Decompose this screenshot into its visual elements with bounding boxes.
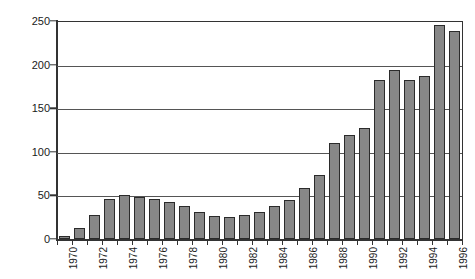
bar <box>194 212 205 239</box>
x-axis-tick-mark <box>72 240 73 245</box>
x-axis-tick-mark <box>207 240 208 245</box>
bar <box>89 215 100 239</box>
y-axis-tick-mark <box>50 195 56 196</box>
x-axis-tick-mark <box>432 240 433 245</box>
x-axis-tick-mark <box>387 240 388 245</box>
bar <box>164 202 175 239</box>
x-axis-tick-mark <box>237 240 238 245</box>
bar <box>179 206 190 239</box>
y-axis-tick-mark <box>50 107 56 108</box>
bar <box>104 199 115 239</box>
x-axis-tick-label: 1986 <box>309 247 319 269</box>
y-axis-tick-label: 50 <box>16 190 50 201</box>
x-axis-tick-mark <box>132 240 133 245</box>
x-axis-tick-mark <box>222 240 223 245</box>
x-axis-tick-label: 1994 <box>429 247 439 269</box>
x-axis-tick-label: 1990 <box>369 247 379 269</box>
x-axis-tick-mark <box>177 240 178 245</box>
bar <box>134 197 145 239</box>
bar-chart: 050100150200250 197019721974197619781980… <box>0 0 475 279</box>
bar <box>404 80 415 239</box>
x-axis-tick-mark <box>117 240 118 245</box>
x-axis-tick-mark <box>102 240 103 245</box>
x-axis-tick-mark <box>327 240 328 245</box>
bar <box>329 143 340 239</box>
x-axis-tick-mark <box>282 240 283 245</box>
x-axis-tick-label: 1976 <box>159 247 169 269</box>
y-axis-tick-mark <box>50 64 56 65</box>
x-axis-tick-mark <box>417 240 418 245</box>
y-axis-tick-mark <box>50 151 56 152</box>
y-axis-tick-label: 200 <box>16 59 50 70</box>
bar <box>359 128 370 239</box>
bar <box>389 70 400 239</box>
x-axis-tick-label: 1978 <box>189 247 199 269</box>
bar <box>269 206 280 239</box>
x-axis-tick-mark <box>447 240 448 245</box>
x-axis-tick-mark <box>162 240 163 245</box>
x-axis-tick-mark <box>357 240 358 245</box>
x-axis-tick-mark <box>87 240 88 245</box>
x-axis-tick-mark <box>192 240 193 245</box>
x-axis-tick-label: 1992 <box>399 247 409 269</box>
x-axis-tick-label: 1982 <box>249 247 259 269</box>
x-axis-tick-mark <box>252 240 253 245</box>
x-axis-tick-mark <box>372 240 373 245</box>
y-axis-tick-label: 150 <box>16 103 50 114</box>
x-axis-tick-label: 1974 <box>129 247 139 269</box>
x-axis-tick-label: 1984 <box>279 247 289 269</box>
bar <box>434 25 445 239</box>
x-axis-tick-mark <box>402 240 403 245</box>
x-axis-tick-label: 1996 <box>459 247 469 269</box>
bar <box>299 188 310 239</box>
bar <box>74 228 85 239</box>
bar <box>239 215 250 239</box>
x-axis-tick-mark <box>462 240 463 245</box>
x-axis: 1970197219741976197819801982198419861988… <box>57 240 462 279</box>
bar <box>209 216 220 239</box>
y-axis-tick-label: 0 <box>16 234 50 245</box>
bar <box>449 31 460 239</box>
y-axis: 050100150200250 <box>0 0 50 279</box>
x-axis-tick-label: 1980 <box>219 247 229 269</box>
x-axis-tick-mark <box>297 240 298 245</box>
x-axis-tick-mark <box>267 240 268 245</box>
bar <box>344 135 355 239</box>
bar <box>149 199 160 239</box>
x-axis-tick-label: 1988 <box>339 247 349 269</box>
bar-series <box>57 21 462 239</box>
bar <box>254 212 265 239</box>
y-axis-tick-label: 100 <box>16 146 50 157</box>
y-axis-tick-label: 250 <box>16 16 50 27</box>
x-axis-tick-mark <box>312 240 313 245</box>
x-axis-tick-label: 1972 <box>99 247 109 269</box>
y-axis-tick-mark <box>50 238 56 239</box>
x-axis-tick-label: 1970 <box>69 247 79 269</box>
y-axis-tick-mark <box>50 20 56 21</box>
bar <box>314 175 325 239</box>
bar <box>119 195 130 239</box>
bar <box>419 76 430 239</box>
bar <box>374 80 385 239</box>
bar <box>59 236 70 239</box>
x-axis-tick-mark <box>342 240 343 245</box>
x-axis-tick-mark <box>147 240 148 245</box>
bar <box>224 217 235 239</box>
bar <box>284 200 295 239</box>
x-axis-tick-mark <box>57 240 58 245</box>
